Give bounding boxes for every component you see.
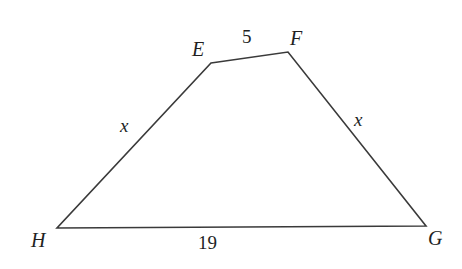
side-length-label-hg: 19	[198, 233, 217, 252]
vertex-label-h: H	[31, 230, 45, 250]
side-length-label-fg: x	[354, 110, 362, 129]
vertex-label-e: E	[192, 39, 204, 59]
side-length-label-he: x	[120, 116, 128, 135]
trapezoid-outline-svg	[0, 0, 462, 269]
trapezoid-shape	[57, 52, 426, 228]
vertex-label-f: F	[290, 28, 302, 48]
geometry-figure-canvas: E F H G 5 x x 19	[0, 0, 462, 269]
side-length-label-ef: 5	[242, 27, 252, 46]
vertex-label-g: G	[428, 228, 442, 248]
